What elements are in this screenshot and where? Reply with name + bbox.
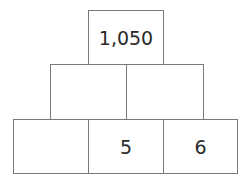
brick-bottom-right-value: 6	[194, 136, 206, 158]
brick-top: 1,050	[88, 10, 164, 65]
brick-bottom-right: 6	[163, 119, 238, 174]
brick-top-value: 1,050	[99, 27, 153, 49]
brick-bottom-left	[13, 119, 89, 174]
brick-middle-right	[126, 64, 204, 120]
brick-bottom-middle: 5	[88, 119, 164, 174]
brick-bottom-middle-value: 5	[120, 136, 132, 158]
brick-middle-left	[50, 64, 127, 120]
